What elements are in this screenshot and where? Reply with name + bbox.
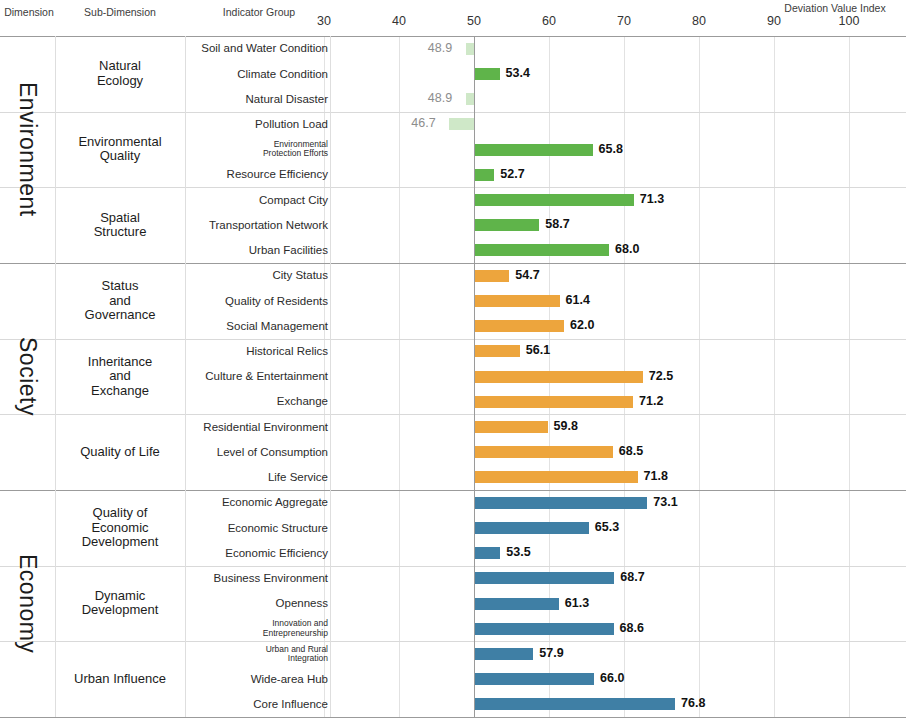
dimension-label-text: Environment (14, 82, 41, 217)
bar (474, 623, 614, 635)
indicator-label: Culture & Entertainment (185, 364, 333, 389)
bar (474, 345, 520, 357)
bar (474, 295, 560, 307)
bar (466, 43, 474, 55)
bar (474, 244, 609, 256)
bar-value-label: 73.1 (653, 495, 677, 509)
bar (474, 648, 533, 660)
sub-dimension-label: Quality of Life (55, 414, 185, 490)
bar-value-label: 71.2 (639, 394, 663, 408)
bar (449, 118, 474, 130)
bar-value-label: 56.1 (526, 343, 550, 357)
tick-label-30: 30 (317, 14, 331, 28)
indicator-label: Wide-area Hub (185, 667, 333, 692)
bar-value-label: 65.8 (599, 142, 623, 156)
gridline-40 (399, 36, 400, 717)
bar (474, 169, 494, 181)
bar (474, 270, 509, 282)
sub-dimension-label: Quality ofEconomicDevelopment (55, 490, 185, 566)
bar-value-label: 48.9 (428, 41, 452, 55)
indicator-label: Exchange (185, 389, 333, 414)
bar-value-label: 65.3 (595, 520, 619, 534)
gridline-50 (474, 36, 475, 717)
tick-label-80: 80 (692, 14, 706, 28)
indicator-label: Natural Disaster (185, 86, 333, 111)
gridline-80 (699, 36, 700, 717)
bar (474, 698, 675, 710)
axis-title: Deviation Value Index (760, 2, 910, 14)
indicator-label: Level of Consumption (185, 440, 333, 465)
bar-value-label: 53.4 (506, 66, 530, 80)
indicator-label: Residential Environment (185, 414, 333, 439)
bar (474, 598, 559, 610)
tick-label-70: 70 (617, 14, 631, 28)
bar (474, 320, 564, 332)
bar-value-label: 58.7 (545, 217, 569, 231)
bar (474, 547, 500, 559)
gridline-90 (774, 36, 775, 717)
tick-label-60: 60 (542, 14, 556, 28)
bar (474, 144, 593, 156)
dimension-label-text: Society (14, 337, 41, 416)
bar-value-label: 54.7 (515, 268, 539, 282)
bar-value-label: 66.0 (600, 671, 624, 685)
bar-value-label: 61.4 (566, 293, 590, 307)
bar-value-label: 57.9 (539, 646, 563, 660)
indicator-label: Quality of Residents (185, 288, 333, 313)
indicator-label: Urban and RuralIntegration (185, 641, 333, 666)
indicator-label: Climate Condition (185, 61, 333, 86)
bar-value-label: 71.3 (640, 192, 664, 206)
bar (474, 396, 633, 408)
bar-value-label: 68.0 (615, 242, 639, 256)
tick-label-100: 100 (839, 14, 860, 28)
indicator-label: Urban Facilities (185, 238, 333, 263)
bar-value-label: 68.5 (619, 444, 643, 458)
indicator-label: Openness (185, 591, 333, 616)
bar (474, 371, 643, 383)
gridline-100 (849, 36, 850, 717)
bar-value-label: 59.8 (554, 419, 578, 433)
sub-dimension-label: StatusandGovernance (55, 263, 185, 339)
bar-value-label: 76.8 (681, 696, 705, 710)
sub-dimension-label: Urban Influence (55, 641, 185, 717)
indicator-label: Business Environment (185, 566, 333, 591)
bar (474, 572, 614, 584)
rule-dimension (0, 717, 906, 718)
sub-dimension-label: DynamicDevelopment (55, 566, 185, 642)
sub-dimension-label: EnvironmentalQuality (55, 112, 185, 188)
bar-value-label: 72.5 (649, 369, 673, 383)
indicator-label: Life Service (185, 465, 333, 490)
bar (474, 471, 638, 483)
bar-value-label: 71.8 (644, 469, 668, 483)
sub-dimension-label: NaturalEcology (55, 36, 185, 112)
indicator-label: Compact City (185, 187, 333, 212)
tick-label-50: 50 (467, 14, 481, 28)
bar (474, 421, 548, 433)
bar (474, 219, 539, 231)
bar-value-label: 68.6 (620, 621, 644, 635)
bar-value-label: 46.7 (411, 116, 435, 130)
bar-value-label: 48.9 (428, 91, 452, 105)
tick-label-90: 90 (767, 14, 781, 28)
bar-value-label: 62.0 (570, 318, 594, 332)
indicator-label: Transportation Network (185, 213, 333, 238)
bar (474, 497, 647, 509)
indicator-label: EnvironmentalProtection Efforts (185, 137, 333, 162)
indicator-label: Resource Efficiency (185, 162, 333, 187)
indicator-label: Economic Structure (185, 515, 333, 540)
column-header-sub-dimension: Sub-Dimension (55, 6, 185, 18)
bar-value-label: 53.5 (506, 545, 530, 559)
bar-value-label: 61.3 (565, 596, 589, 610)
bar (474, 522, 589, 534)
bar (474, 673, 594, 685)
dimension-label: Society (0, 263, 55, 490)
indicator-label: Soil and Water Condition (185, 36, 333, 61)
indicator-label: Economic Aggregate (185, 490, 333, 515)
indicator-label: Historical Relics (185, 339, 333, 364)
tick-label-40: 40 (392, 14, 406, 28)
indicator-label: Pollution Load (185, 112, 333, 137)
column-header-indicator-group: Indicator Group (185, 6, 333, 18)
dimension-label: Economy (0, 490, 55, 717)
dimension-label-text: Economy (14, 554, 41, 653)
bar-value-label: 52.7 (500, 167, 524, 181)
